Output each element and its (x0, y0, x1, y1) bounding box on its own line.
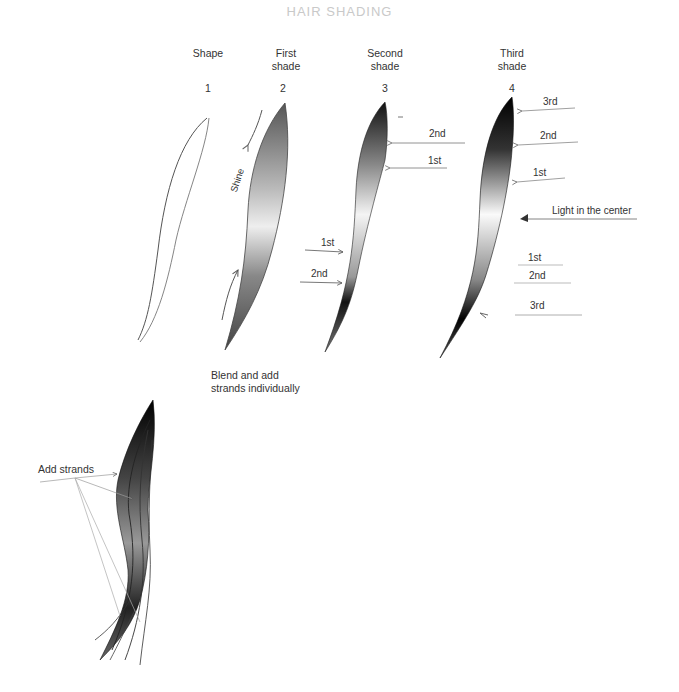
direction-arrow-down (248, 110, 262, 145)
step3-label-1st-bottom: 1st (321, 237, 334, 248)
blend-note: Blend and add strands individually (211, 369, 300, 395)
step4-label-2nd-bottom: 2nd (529, 270, 546, 281)
step4-label-1st-bottom: 1st (528, 252, 541, 263)
step4-label-3rd-top: 3rd (543, 96, 557, 107)
hair-shape-outline (138, 118, 209, 342)
arrow-1st-top (517, 178, 565, 182)
step4-label-3rd-bottom: 3rd (530, 300, 544, 311)
step3-label-2nd-bottom: 2nd (311, 268, 328, 279)
step4-label-center: Light in the center (552, 205, 632, 216)
hair-blended-strands (40, 400, 154, 665)
step4-label-1st-top: 1st (533, 167, 546, 178)
arrow-1st-bottom (305, 250, 343, 252)
step3-label-2nd-top: 2nd (429, 128, 446, 139)
hair-second-shade (300, 102, 465, 352)
step4-label-2nd-top: 2nd (540, 130, 557, 141)
hair-third-shade (440, 97, 637, 358)
arrow-3rd-bottom (480, 313, 488, 318)
add-strands-label: Add strands (38, 463, 94, 475)
drawing-canvas (0, 0, 679, 692)
pointer-line (40, 478, 75, 482)
arrow-3rd-top (522, 108, 575, 111)
arrow-2nd-top (518, 142, 578, 145)
step3-label-1st-top: 1st (428, 155, 441, 166)
arrow-2nd-bottom (300, 282, 342, 283)
arrow-center-head (520, 214, 528, 222)
hair-first-shade (222, 103, 288, 350)
pointer-strand-3 (75, 478, 120, 616)
